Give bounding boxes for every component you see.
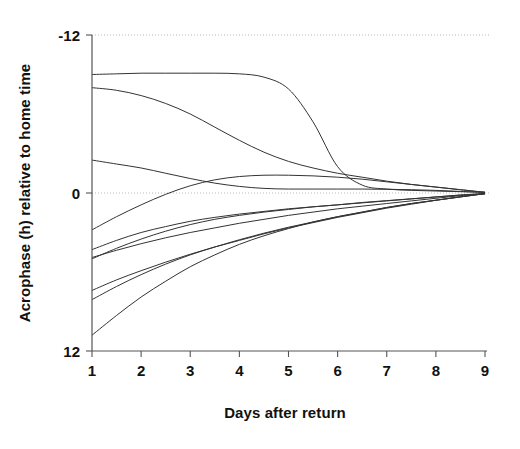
y-axis-tick-labels: -12012: [58, 27, 80, 360]
gridlines: [92, 35, 490, 193]
x-tick-label-7: 7: [383, 362, 391, 379]
y-axis-ticks: [86, 35, 92, 351]
y-tick-label-12: 12: [63, 343, 80, 360]
x-tick-label-1: 1: [88, 362, 96, 379]
x-tick-label-5: 5: [284, 362, 292, 379]
x-axis-tick-labels: 123456789: [88, 362, 489, 379]
series-line-2: [92, 88, 485, 193]
x-tick-label-2: 2: [137, 362, 145, 379]
plot-series-group: [92, 73, 485, 335]
acrophase-line-chart: -12012 123456789 Days after return Acrop…: [0, 0, 520, 449]
x-axis-ticks: [92, 351, 485, 357]
series-line-6: [92, 194, 485, 258]
y-tick-label-0: 0: [72, 185, 80, 202]
chart-figure: -12012 123456789 Days after return Acrop…: [0, 0, 520, 449]
series-line-7: [92, 194, 485, 259]
y-axis-title: Acrophase (h) relative to home time: [16, 64, 33, 323]
axes: [92, 35, 487, 351]
x-tick-label-9: 9: [481, 362, 489, 379]
x-axis-title: Days after return: [224, 404, 346, 421]
series-line-4: [92, 175, 485, 230]
x-tick-label-6: 6: [333, 362, 341, 379]
x-tick-label-4: 4: [235, 362, 244, 379]
series-line-8: [92, 194, 485, 291]
x-tick-label-3: 3: [186, 362, 194, 379]
series-line-1: [92, 73, 485, 192]
y-tick-label--12: -12: [58, 27, 80, 44]
series-line-3: [92, 160, 485, 192]
x-tick-label-8: 8: [432, 362, 440, 379]
